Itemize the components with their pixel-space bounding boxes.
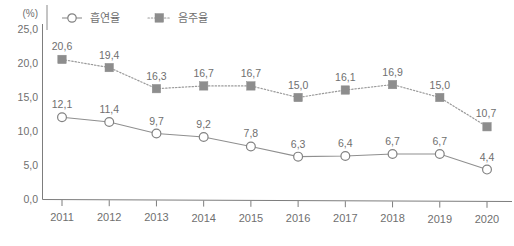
data-point-smoking bbox=[435, 150, 444, 159]
data-point-drinking bbox=[199, 82, 207, 90]
value-label-smoking: 6,4 bbox=[338, 137, 353, 149]
data-point-smoking bbox=[388, 150, 397, 159]
value-label-drinking: 10,7 bbox=[476, 107, 497, 119]
y-tick-label: 0,0 bbox=[23, 193, 38, 205]
data-point-drinking bbox=[483, 123, 491, 131]
legend-item-drinking[interactable]: 음주율 bbox=[148, 12, 208, 24]
data-point-smoking bbox=[58, 113, 67, 122]
value-label-smoking: 4,4 bbox=[480, 151, 495, 163]
value-label-smoking: 9,2 bbox=[196, 118, 211, 130]
chart-container: (%) 흡연율 음주율 0,05,010,015,020,025,0 20112… bbox=[0, 0, 514, 246]
y-tick-label: 5,0 bbox=[23, 159, 38, 171]
x-tick-label: 2018 bbox=[380, 212, 404, 224]
data-point-smoking bbox=[246, 142, 255, 151]
value-label-drinking: 20,6 bbox=[52, 40, 73, 52]
series-value-labels-smoking: 12,111,49,79,27,86,36,46,76,74,4 bbox=[52, 98, 495, 162]
x-tick-label: 2013 bbox=[144, 211, 168, 223]
x-tick-label: 2011 bbox=[50, 211, 74, 223]
value-label-drinking: 15,0 bbox=[288, 79, 309, 91]
data-point-drinking bbox=[247, 82, 255, 90]
value-label-smoking: 6,3 bbox=[291, 138, 306, 150]
value-label-drinking: 16,3 bbox=[146, 70, 167, 82]
series-markers-drinking bbox=[58, 55, 491, 131]
value-label-drinking: 15,0 bbox=[430, 79, 451, 91]
series-markers-smoking bbox=[58, 113, 492, 174]
y-tick-label: 25,0 bbox=[18, 23, 39, 35]
x-axis-line bbox=[43, 200, 513, 202]
data-point-drinking bbox=[388, 80, 396, 88]
x-tick-label: 2019 bbox=[428, 213, 452, 225]
value-label-smoking: 7,8 bbox=[244, 127, 259, 139]
data-point-drinking bbox=[294, 93, 302, 101]
line-chart: (%) 흡연율 음주율 0,05,010,015,020,025,0 20112… bbox=[0, 0, 514, 246]
data-point-drinking bbox=[58, 55, 66, 63]
x-tick-label: 2012 bbox=[97, 211, 121, 223]
value-label-drinking: 16,1 bbox=[335, 71, 356, 83]
value-label-drinking: 16,9 bbox=[382, 66, 403, 78]
chart-legend: 흡연율 음주율 bbox=[47, 5, 208, 30]
data-point-smoking bbox=[105, 118, 114, 127]
value-label-drinking: 16,7 bbox=[241, 67, 262, 79]
legend-label-drinking: 음주율 bbox=[178, 12, 208, 24]
filled-square-icon bbox=[155, 14, 164, 23]
x-tick-label: 2016 bbox=[286, 212, 310, 224]
data-point-smoking bbox=[199, 133, 208, 142]
x-tick-label: 2015 bbox=[239, 212, 263, 224]
legend-item-smoking[interactable]: 흡연율 bbox=[62, 11, 120, 24]
value-label-smoking: 12,1 bbox=[52, 98, 73, 110]
data-point-smoking bbox=[341, 152, 350, 161]
data-point-drinking bbox=[105, 63, 113, 71]
data-point-smoking bbox=[294, 152, 303, 161]
data-point-smoking bbox=[152, 129, 161, 138]
legend-label-smoking: 흡연율 bbox=[90, 11, 120, 24]
data-point-smoking bbox=[483, 165, 492, 174]
value-label-drinking: 19,4 bbox=[99, 49, 120, 61]
value-label-drinking: 16,7 bbox=[193, 67, 214, 79]
x-tick-label: 2020 bbox=[475, 213, 499, 225]
data-point-drinking bbox=[436, 93, 444, 101]
x-tick-label: 2014 bbox=[191, 212, 215, 224]
series-line-drinking bbox=[62, 59, 487, 126]
value-label-smoking: 11,4 bbox=[99, 103, 119, 115]
y-tick-label: 20,0 bbox=[18, 57, 39, 69]
value-label-smoking: 6,7 bbox=[385, 135, 400, 147]
y-tick-label: 10,0 bbox=[18, 125, 39, 137]
series-line-smoking bbox=[62, 117, 487, 169]
y-axis-ticks: 0,05,010,015,020,025,0 bbox=[18, 23, 39, 205]
x-tick-label: 2017 bbox=[333, 212, 357, 224]
value-label-smoking: 9,7 bbox=[149, 115, 164, 127]
value-label-smoking: 6,7 bbox=[432, 135, 447, 147]
x-axis-ticks: 2011201220132014201520162017201820192020 bbox=[50, 200, 499, 225]
data-point-drinking bbox=[152, 84, 160, 92]
data-point-drinking bbox=[341, 86, 349, 94]
y-axis-unit-label: (%) bbox=[22, 8, 38, 19]
y-tick-label: 15,0 bbox=[18, 91, 39, 103]
open-circle-icon bbox=[68, 14, 76, 22]
